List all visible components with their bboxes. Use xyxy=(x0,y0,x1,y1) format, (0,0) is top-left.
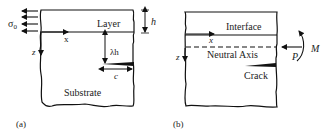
crack-label: Crack xyxy=(244,70,268,81)
z-axis-label: z xyxy=(175,52,180,62)
substrate-label: Substrate xyxy=(64,87,102,98)
x-axis-label: x xyxy=(208,35,213,45)
crack-length-label: c xyxy=(114,71,118,81)
z-axis-label: z xyxy=(31,47,36,57)
moment-label: M xyxy=(310,43,320,54)
crack xyxy=(245,63,276,67)
diagram-canvas: σ0 x z Layer h λh c Substrate (a) Interf… xyxy=(0,0,332,138)
neutral-axis-label: Neutral Axis xyxy=(207,49,258,60)
crack-depth-label: λh xyxy=(110,47,119,57)
thickness-label: h xyxy=(151,16,156,27)
panel-a: σ0 x z Layer h λh c Substrate (a) xyxy=(8,10,156,129)
x-axis-label: x xyxy=(64,34,69,44)
interface-label: Interface xyxy=(226,21,262,32)
panel-a-caption: (a) xyxy=(16,119,26,129)
crack xyxy=(102,62,134,66)
panel-b-caption: (b) xyxy=(173,119,184,129)
stress-label: σ0 xyxy=(8,18,17,31)
panel-b: Interface x Neutral Axis z Crack P M (b) xyxy=(173,12,320,129)
layer-label: Layer xyxy=(97,18,121,29)
